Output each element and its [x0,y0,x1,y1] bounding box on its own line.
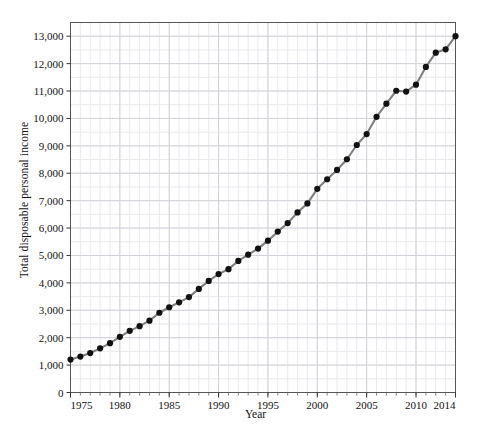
data-point [344,156,350,162]
data-point [176,299,182,305]
y-tick-label: 2,000 [39,332,64,344]
y-axis-ticks: 01,0002,0003,0004,0005,0006,0007,0008,00… [33,30,70,398]
data-point [225,266,231,272]
minor-gridlines [71,23,456,393]
y-tick-label: 6,000 [39,222,64,234]
data-series-markers [67,33,458,363]
data-point [294,209,300,215]
data-point [235,258,241,264]
data-point [393,88,399,94]
major-gridlines [71,23,456,393]
data-point [77,354,83,360]
data-point [186,294,192,300]
data-point [373,114,379,120]
data-point [443,46,449,52]
data-point [156,310,162,316]
data-point [146,318,152,324]
y-tick-label: 1,000 [39,359,64,371]
data-point [255,246,261,252]
data-point [206,278,212,284]
data-point [383,101,389,107]
data-point [137,323,143,329]
y-axis-title: Total disposable personal income [10,0,38,400]
data-point [324,176,330,182]
data-point [314,186,320,192]
data-point [196,286,202,292]
y-tick-label: 7,000 [39,195,64,207]
plot-frame [71,23,456,393]
y-tick-label: 8,000 [39,167,64,179]
data-point [127,328,133,334]
chart-svg: 01,0002,0003,0004,0005,0006,0007,0008,00… [0,0,485,441]
data-point [285,220,291,226]
data-point [107,340,113,346]
data-point [97,345,103,351]
x-axis-title: Year [0,408,485,420]
y-tick-label: 11,000 [34,85,64,97]
data-point [304,200,310,206]
data-point [117,334,123,340]
data-point [354,142,360,148]
data-point [215,271,221,277]
data-point [423,64,429,70]
data-point [275,229,281,235]
y-tick-label: 9,000 [39,140,64,152]
data-point [87,350,93,356]
y-axis-title-text: Total disposable personal income [18,122,30,279]
y-tick-label: 0 [58,387,64,399]
data-point [67,357,73,363]
data-point [334,167,340,173]
y-tick-label: 4,000 [39,277,64,289]
data-point [364,131,370,137]
x-axis-title-text: Year [219,408,266,420]
data-point [433,50,439,56]
data-point [265,238,271,244]
data-series-line [71,36,456,359]
chart-figure: Total disposable personal income 01,0002… [0,0,485,441]
y-tick-label: 5,000 [39,249,64,261]
y-tick-label: 3,000 [39,304,64,316]
data-point [403,88,409,94]
data-point [413,82,419,88]
data-point [245,252,251,258]
data-point [166,304,172,310]
data-point [452,33,458,39]
